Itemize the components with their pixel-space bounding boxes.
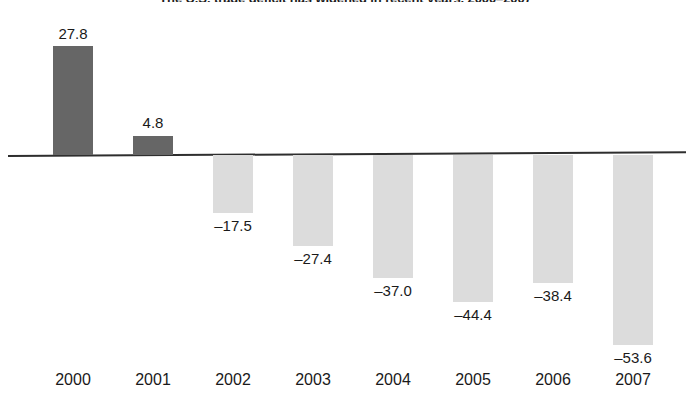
x-axis-tick-labels: 2000 2001 2002 2003 2004 2005 2006 2007 xyxy=(0,371,691,397)
x-tick-label: 2007 xyxy=(593,371,673,389)
bar-value-label: –17.5 xyxy=(193,217,273,234)
bar-group: –53.6 xyxy=(593,0,673,360)
bar[interactable] xyxy=(53,46,93,155)
bar[interactable] xyxy=(293,155,333,246)
bar-value-label: 27.8 xyxy=(33,25,113,42)
bar-value-label: –37.0 xyxy=(353,282,433,299)
plot-area: 27.8 4.8 –17.5 –27.4 –37.0 –44.4 xyxy=(0,0,691,360)
bar[interactable] xyxy=(213,155,253,213)
bar-group: –38.4 xyxy=(513,0,593,360)
bar-group: 27.8 xyxy=(33,0,113,360)
x-tick-label: 2006 xyxy=(513,371,593,389)
bar-group: –37.0 xyxy=(353,0,433,360)
bar[interactable] xyxy=(533,155,573,283)
x-tick-label: 2003 xyxy=(273,371,353,389)
bar-value-label: –38.4 xyxy=(513,287,593,304)
bar-value-label: –53.6 xyxy=(593,349,673,366)
bar[interactable] xyxy=(453,155,493,302)
bar-chart-figure: The U.S. trade deficit has widened in re… xyxy=(0,0,691,409)
bar-group: –27.4 xyxy=(273,0,353,360)
x-tick-label: 2005 xyxy=(433,371,513,389)
x-tick-label: 2002 xyxy=(193,371,273,389)
bar-value-label: 4.8 xyxy=(113,114,193,131)
bar-value-label: –44.4 xyxy=(433,306,513,323)
x-tick-label: 2004 xyxy=(353,371,433,389)
bar[interactable] xyxy=(613,155,653,345)
bar-group: 4.8 xyxy=(113,0,193,360)
x-tick-label: 2001 xyxy=(113,371,193,389)
bar-value-label: –27.4 xyxy=(273,250,353,267)
bar[interactable] xyxy=(373,155,413,278)
x-tick-label: 2000 xyxy=(33,371,113,389)
bar-group: –44.4 xyxy=(433,0,513,360)
bar[interactable] xyxy=(133,136,173,155)
bar-group: –17.5 xyxy=(193,0,273,360)
